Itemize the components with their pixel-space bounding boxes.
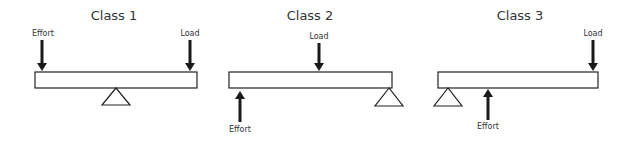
class-1-title: Class 1	[91, 8, 138, 23]
class-3-effort-label: Effort	[477, 122, 499, 131]
class-1-effort-label: Effort	[32, 29, 54, 38]
class-3-title: Class 3	[497, 8, 544, 23]
class-2-beam	[229, 72, 392, 88]
class-2-fulcrum-icon	[375, 88, 403, 106]
class-1-load-label: Load	[180, 29, 199, 38]
class-3-load-arrow-icon	[588, 40, 598, 71]
class-1-load-arrow-icon	[185, 40, 195, 71]
class-2-panel: Class 2 Load Effort	[229, 8, 403, 134]
class-2-load-label: Load	[309, 32, 328, 41]
class-1-fulcrum-icon	[102, 88, 130, 105]
class-3-panel: Class 3 Load Effort	[434, 8, 603, 131]
class-3-beam	[438, 72, 598, 88]
class-2-effort-label: Effort	[229, 125, 251, 134]
class-3-fulcrum-icon	[434, 88, 462, 106]
class-1-beam	[35, 72, 197, 88]
class-3-effort-arrow-icon	[483, 89, 493, 120]
class-3-load-label: Load	[583, 29, 602, 38]
class-1-effort-arrow-icon	[37, 40, 47, 71]
class-2-effort-arrow-icon	[235, 91, 245, 122]
class-1-panel: Class 1 Effort Load	[32, 8, 200, 105]
lever-classes-diagram: Class 1 Effort Load Class 2 Load Effort	[0, 0, 634, 141]
class-2-load-arrow-icon	[314, 43, 324, 71]
class-2-title: Class 2	[287, 8, 334, 23]
